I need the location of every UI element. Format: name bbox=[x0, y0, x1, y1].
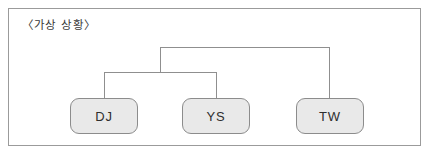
node-tw[interactable]: TW bbox=[296, 98, 364, 134]
node-ys[interactable]: YS bbox=[182, 98, 250, 134]
node-dj[interactable]: DJ bbox=[70, 98, 138, 134]
node-tw-label: TW bbox=[319, 109, 341, 124]
node-ys-label: YS bbox=[207, 109, 226, 124]
node-dj-label: DJ bbox=[95, 109, 113, 124]
figure-root: 〈가상 상황〉 DJ YS TW bbox=[0, 0, 431, 156]
figure-caption: 〈가상 상황〉 bbox=[22, 18, 96, 32]
